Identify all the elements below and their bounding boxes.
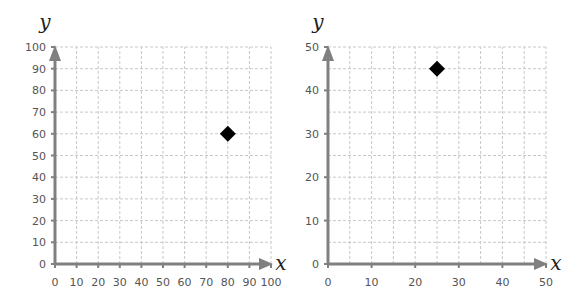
y-axis-label: y xyxy=(311,10,324,34)
y-tick-label: 50 xyxy=(305,41,319,54)
y-tick-label: 0 xyxy=(312,258,319,271)
y-tick-label: 70 xyxy=(32,106,46,119)
y-tick-label: 30 xyxy=(32,193,46,206)
chart-panel-2: 0102030405001020304050yx xyxy=(305,10,562,289)
x-tick-label: 30 xyxy=(113,276,127,289)
grid-lines xyxy=(55,47,271,264)
x-tick-label: 10 xyxy=(70,276,84,289)
x-tick-label: 50 xyxy=(539,276,553,289)
y-tick-label: 50 xyxy=(32,150,46,163)
y-tick-label: 80 xyxy=(32,84,46,97)
y-tick-label: 20 xyxy=(305,171,319,184)
x-tick-label: 10 xyxy=(365,276,379,289)
x-tick-label: 70 xyxy=(199,276,213,289)
x-tick-label: 20 xyxy=(91,276,105,289)
y-tick-label: 40 xyxy=(305,84,319,97)
y-tick-label: 30 xyxy=(305,128,319,141)
diamond-marker-icon xyxy=(220,126,236,142)
y-axis-label: y xyxy=(38,10,51,34)
axes: 0102030405060708090100010203040506070809… xyxy=(25,41,282,289)
y-tick-label: 40 xyxy=(32,171,46,184)
x-axis-label: x xyxy=(275,251,286,275)
x-tick-label: 100 xyxy=(261,276,282,289)
y-tick-label: 10 xyxy=(305,215,319,228)
x-tick-label: 50 xyxy=(156,276,170,289)
x-tick-label: 20 xyxy=(408,276,422,289)
y-tick-label: 100 xyxy=(25,41,46,54)
x-tick-label: 40 xyxy=(134,276,148,289)
x-tick-label: 0 xyxy=(52,276,59,289)
y-tick-label: 90 xyxy=(32,63,46,76)
y-tick-label: 60 xyxy=(32,128,46,141)
chart-panel-1: 0102030405060708090100010203040506070809… xyxy=(25,10,287,289)
x-tick-label: 40 xyxy=(495,276,509,289)
x-tick-label: 0 xyxy=(325,276,332,289)
x-axis-label: x xyxy=(550,251,561,275)
x-tick-label: 60 xyxy=(178,276,192,289)
x-tick-label: 90 xyxy=(242,276,256,289)
chart-canvas: 0102030405060708090100010203040506070809… xyxy=(0,0,581,305)
axes: 0102030405001020304050 xyxy=(305,41,553,289)
y-tick-label: 20 xyxy=(32,215,46,228)
x-tick-label: 30 xyxy=(452,276,466,289)
grid-lines xyxy=(328,47,546,264)
diamond-marker-icon xyxy=(429,61,445,77)
y-tick-label: 10 xyxy=(32,236,46,249)
y-tick-label: 0 xyxy=(39,258,46,271)
x-tick-label: 80 xyxy=(221,276,235,289)
